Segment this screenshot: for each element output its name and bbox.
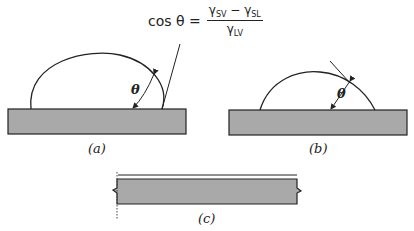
tangent-line-a [162, 44, 180, 109]
theta-label-b: θ [337, 86, 346, 101]
theta-label-a: θ [131, 82, 140, 97]
substrate-c [113, 179, 301, 204]
panel-b [229, 61, 407, 135]
tangent-line-b [330, 61, 350, 83]
substrate-b [229, 110, 407, 135]
panel-a [8, 44, 186, 134]
caption-a: (a) [88, 141, 106, 156]
caption-b: (b) [309, 141, 327, 156]
substrate-a [8, 109, 186, 134]
wetting-diagram [0, 0, 414, 231]
drop-b [260, 72, 375, 110]
drop-a [31, 53, 164, 109]
caption-c: (c) [198, 211, 215, 226]
